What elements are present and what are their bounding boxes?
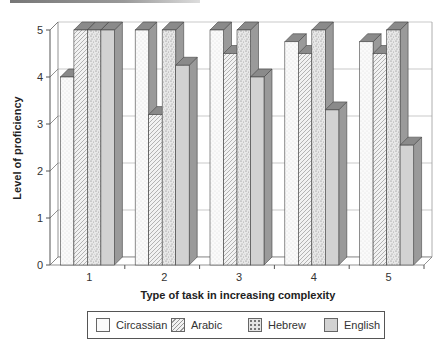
bar-chart: 01234512345 Level of proficiency Type of… — [0, 0, 441, 357]
legend-item-english: English — [324, 318, 380, 332]
bar — [101, 22, 123, 265]
x-tick-label: 4 — [311, 271, 317, 283]
y-tick-label: 3 — [37, 118, 43, 130]
bar — [251, 69, 273, 265]
legend-swatch-english — [324, 318, 338, 332]
bars — [60, 22, 421, 265]
legend-item-arabic: Arabic — [171, 318, 222, 332]
y-axis-title: Level of proficiency — [11, 95, 23, 199]
x-tick-label: 1 — [86, 271, 92, 283]
legend: Circassian Arabic Hebrew English — [87, 311, 385, 339]
legend-item-circassian: Circassian — [96, 318, 167, 332]
legend-item-hebrew: Hebrew — [248, 318, 306, 332]
y-tick-label: 1 — [37, 212, 43, 224]
legend-swatch-circassian — [96, 318, 110, 332]
bar — [176, 57, 198, 265]
bar — [325, 102, 347, 265]
legend-swatch-hebrew — [248, 318, 262, 332]
x-tick-label: 2 — [161, 271, 167, 283]
y-tick-label: 0 — [37, 259, 43, 271]
legend-label: Arabic — [191, 319, 222, 331]
y-tick-label: 5 — [37, 24, 43, 36]
y-tick-label: 4 — [37, 71, 43, 83]
bar — [400, 137, 422, 265]
legend-label: Circassian — [116, 319, 167, 331]
x-tick-label: 3 — [236, 271, 242, 283]
y-tick-label: 2 — [37, 165, 43, 177]
legend-label: English — [344, 319, 380, 331]
x-tick-label: 5 — [386, 271, 392, 283]
legend-label: Hebrew — [268, 319, 306, 331]
x-axis-title: Type of task in increasing complexity — [141, 289, 337, 301]
legend-swatch-arabic — [171, 318, 185, 332]
